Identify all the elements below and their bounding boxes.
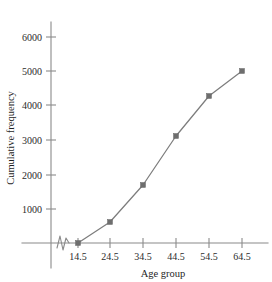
y-axis-title: Cumulative frequency <box>5 90 16 184</box>
y-tick-label-4000: 4000 <box>22 100 42 111</box>
y-tick-label-6000: 6000 <box>22 32 42 43</box>
data-point-54-5 <box>207 94 212 99</box>
data-point-44-5 <box>174 134 179 139</box>
y-tick-label-5000: 5000 <box>22 66 42 77</box>
cumulative-frequency-line <box>78 71 242 243</box>
data-point-markers <box>76 69 245 246</box>
x-tick-label-24-5: 24.5 <box>101 251 119 262</box>
chart-plot-area: 6000 5000 4000 3000 2000 1000 14.5 24.5 … <box>0 0 272 282</box>
x-axis-tick-labels: 14.5 24.5 34.5 44.5 54.5 64.5 <box>69 251 251 262</box>
data-point-24-5 <box>108 220 113 225</box>
x-tick-label-44-5: 44.5 <box>167 251 185 262</box>
y-tick-label-2000: 2000 <box>22 170 42 181</box>
y-tick-label-3000: 3000 <box>22 135 42 146</box>
x-tick-label-54-5: 54.5 <box>200 251 218 262</box>
cumulative-frequency-chart: 6000 5000 4000 3000 2000 1000 14.5 24.5 … <box>0 0 272 282</box>
data-point-14-5 <box>76 241 81 246</box>
data-point-64-5 <box>240 69 245 74</box>
data-point-34-5 <box>141 183 146 188</box>
x-axis-title: Age group <box>141 268 186 279</box>
x-tick-label-64-5: 64.5 <box>233 251 251 262</box>
x-tick-label-14-5: 14.5 <box>69 251 87 262</box>
x-tick-label-34-5: 34.5 <box>134 251 152 262</box>
y-tick-label-1000: 1000 <box>22 204 42 215</box>
y-axis-tick-labels: 6000 5000 4000 3000 2000 1000 <box>22 32 42 215</box>
